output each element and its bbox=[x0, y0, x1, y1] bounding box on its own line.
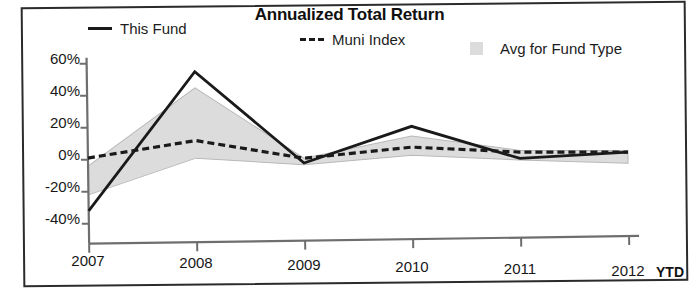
x-tick-label: 2010 bbox=[395, 258, 428, 275]
x-tick-label: 2009 bbox=[287, 256, 320, 273]
x-tick-label: 2008 bbox=[179, 254, 212, 271]
x-tick-label: 2007 bbox=[71, 252, 104, 269]
x-tick-label: 2012 bbox=[611, 262, 644, 279]
x-tick-label: 2011 bbox=[504, 260, 536, 277]
x-axis-labels: 200720082009201020112012YTD bbox=[0, 0, 699, 305]
x-axis-ytd-label: YTD bbox=[656, 264, 684, 280]
chart-figure: Annualized Total Return This Fund Muni I… bbox=[0, 0, 699, 305]
